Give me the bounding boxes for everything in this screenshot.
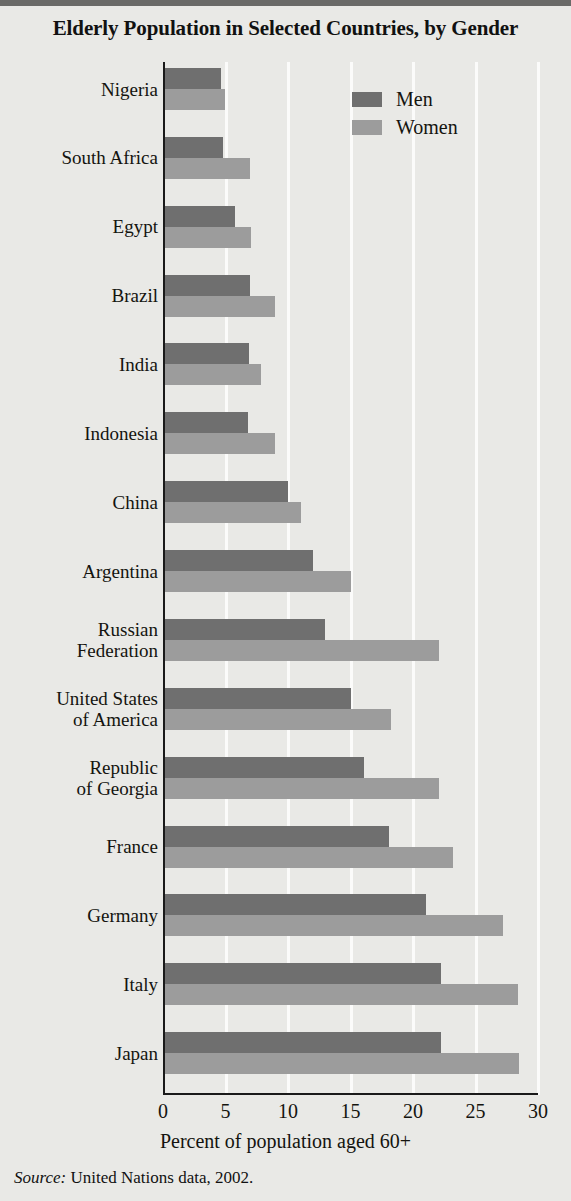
x-tick-label: 25 bbox=[466, 1100, 486, 1123]
bar-men bbox=[165, 826, 389, 847]
bar-men bbox=[165, 206, 235, 227]
bar-group bbox=[165, 1032, 538, 1074]
bar-women bbox=[165, 1053, 519, 1074]
y-axis-line bbox=[163, 62, 165, 1095]
bar-women bbox=[165, 984, 518, 1005]
bar-men bbox=[165, 343, 249, 364]
category-label: Republic of Georgia bbox=[3, 757, 158, 799]
bar-group bbox=[165, 757, 538, 799]
category-label: France bbox=[3, 836, 158, 857]
bar-group bbox=[165, 550, 538, 592]
bar-group bbox=[165, 963, 538, 1005]
x-tick-label: 0 bbox=[158, 1100, 168, 1123]
scan-edge-band bbox=[0, 0, 571, 6]
bar-group bbox=[165, 481, 538, 523]
category-label: Russian Federation bbox=[3, 619, 158, 661]
bar-women bbox=[165, 502, 301, 523]
bar-men bbox=[165, 894, 426, 915]
bar-group bbox=[165, 412, 538, 454]
bar-women bbox=[165, 227, 251, 248]
source-prefix: Source: bbox=[14, 1168, 66, 1187]
bar-women bbox=[165, 89, 225, 110]
bar-women bbox=[165, 296, 275, 317]
legend-item-women: Women bbox=[352, 113, 522, 141]
bar-group bbox=[165, 275, 538, 317]
source-note: Source: United Nations data, 2002. bbox=[14, 1168, 253, 1188]
category-label: United States of America bbox=[3, 688, 158, 730]
category-label: Japan bbox=[3, 1043, 158, 1064]
bar-men bbox=[165, 963, 441, 984]
legend-item-men: Men bbox=[352, 85, 522, 113]
category-label: India bbox=[3, 354, 158, 375]
bar-women bbox=[165, 847, 453, 868]
x-tick-label: 30 bbox=[528, 1100, 548, 1123]
x-axis-line bbox=[163, 1093, 538, 1095]
bar-women bbox=[165, 364, 261, 385]
bar-men bbox=[165, 481, 288, 502]
x-tick-label: 15 bbox=[341, 1100, 361, 1123]
category-label: Egypt bbox=[3, 216, 158, 237]
chart-figure: Elderly Population in Selected Countries… bbox=[0, 0, 571, 1201]
bar-group bbox=[165, 206, 538, 248]
bar-men bbox=[165, 275, 250, 296]
x-tick-label: 20 bbox=[403, 1100, 423, 1123]
category-label: Indonesia bbox=[3, 423, 158, 444]
plot-area bbox=[163, 62, 538, 1095]
bar-men bbox=[165, 412, 248, 433]
legend-label-men: Men bbox=[396, 88, 433, 111]
category-label: Germany bbox=[3, 905, 158, 926]
category-label: Argentina bbox=[3, 561, 158, 582]
bar-women bbox=[165, 571, 351, 592]
bar-men bbox=[165, 688, 351, 709]
source-text: United Nations data, 2002. bbox=[66, 1168, 253, 1187]
x-axis-title: Percent of population aged 60+ bbox=[0, 1130, 571, 1153]
bar-women bbox=[165, 158, 250, 179]
legend-swatch-icon bbox=[352, 92, 382, 107]
category-axis-labels: NigeriaSouth AfricaEgyptBrazilIndiaIndon… bbox=[0, 62, 158, 1095]
bar-women bbox=[165, 915, 503, 936]
x-axis-tick-labels: 051015202530 bbox=[163, 1100, 538, 1126]
bar-group bbox=[165, 137, 538, 179]
category-label: China bbox=[3, 492, 158, 513]
bar-group bbox=[165, 826, 538, 868]
bar-group bbox=[165, 894, 538, 936]
bar-men bbox=[165, 1032, 441, 1053]
chart-legend: Men Women bbox=[352, 85, 522, 141]
bar-group bbox=[165, 688, 538, 730]
bar-group bbox=[165, 619, 538, 661]
legend-swatch-icon bbox=[352, 120, 382, 135]
bar-men bbox=[165, 757, 364, 778]
category-label: Nigeria bbox=[3, 79, 158, 100]
category-label: Brazil bbox=[3, 285, 158, 306]
bar-men bbox=[165, 550, 313, 571]
x-tick-label: 10 bbox=[278, 1100, 298, 1123]
bar-men bbox=[165, 137, 223, 158]
legend-label-women: Women bbox=[396, 116, 458, 139]
category-label: Italy bbox=[3, 974, 158, 995]
bar-women bbox=[165, 709, 391, 730]
chart-title: Elderly Population in Selected Countries… bbox=[0, 16, 571, 41]
category-label: South Africa bbox=[3, 147, 158, 168]
bar-women bbox=[165, 433, 275, 454]
x-tick-label: 5 bbox=[221, 1100, 231, 1123]
bar-group bbox=[165, 343, 538, 385]
bar-women bbox=[165, 640, 439, 661]
bar-men bbox=[165, 68, 221, 89]
bar-women bbox=[165, 778, 439, 799]
bar-men bbox=[165, 619, 325, 640]
